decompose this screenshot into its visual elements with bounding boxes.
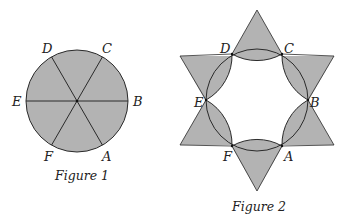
- center-point: [76, 100, 79, 103]
- label-E: E: [11, 94, 22, 109]
- label-C: C: [284, 41, 294, 56]
- label-D: D: [41, 41, 53, 56]
- label-C: C: [102, 41, 112, 56]
- label-F: F: [222, 149, 233, 164]
- figure-1-caption: Figure 1: [54, 168, 109, 183]
- figure-1: D C B E F A Figure 1: [11, 41, 143, 183]
- figure-2: D C B E F A Figure 2: [180, 10, 334, 214]
- label-B: B: [132, 94, 143, 109]
- label-A: A: [283, 149, 293, 164]
- label-E: E: [193, 95, 204, 110]
- diagram-canvas: D C B E F A Figure 1: [0, 0, 344, 222]
- figure-2-caption: Figure 2: [231, 199, 286, 214]
- label-F: F: [43, 149, 54, 164]
- label-D: D: [219, 41, 231, 56]
- label-B: B: [309, 95, 320, 110]
- label-A: A: [101, 149, 111, 164]
